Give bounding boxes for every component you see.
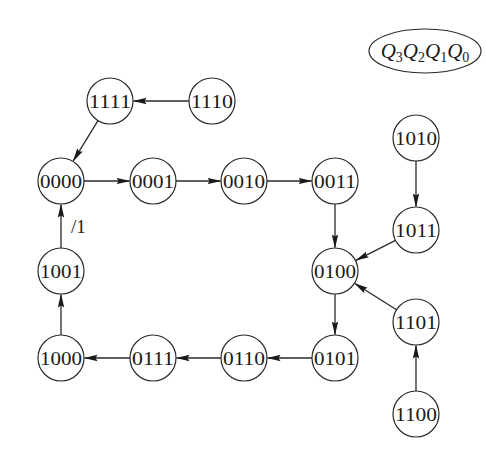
state-node-1001: 1001 (38, 248, 84, 294)
state-label: 1100 (395, 404, 437, 425)
state-node-1010: 1010 (393, 115, 439, 161)
state-node-0001: 0001 (130, 158, 176, 204)
state-node-1101: 1101 (393, 299, 439, 345)
state-label: 0111 (132, 348, 174, 369)
transition-output-label: /1 (71, 216, 86, 237)
transition-arrow-1111-to-0000 (73, 121, 98, 161)
state-node-0011: 0011 (312, 158, 358, 204)
state-node-0100: 0100 (312, 248, 358, 294)
state-label: 0010 (223, 171, 265, 192)
state-node-1110: 1110 (189, 78, 235, 124)
state-node-0101: 0101 (312, 335, 358, 381)
transition-labels: /1 (71, 216, 86, 237)
state-label: 0110 (223, 348, 265, 369)
state-node-1100: 1100 (393, 391, 439, 437)
state-label: 1011 (395, 220, 437, 241)
state-label: 0000 (40, 171, 82, 192)
state-diagram: Q3Q2Q1Q0 /1 1111111000000001001000111010… (0, 0, 486, 463)
state-label: 0101 (314, 348, 356, 369)
state-label: 1010 (395, 128, 437, 149)
state-nodes: 1111111000000001001000111010101101001001… (38, 78, 439, 437)
state-label: 0100 (314, 261, 356, 282)
state-node-0010: 0010 (221, 158, 267, 204)
variable-legend: Q3Q2Q1Q0 (369, 29, 481, 73)
legend-text: Q3Q2Q1Q0 (381, 39, 470, 65)
state-label: 1101 (395, 312, 437, 333)
state-node-1111: 1111 (87, 78, 133, 124)
state-label: 1001 (40, 261, 82, 282)
state-label: 0011 (314, 171, 356, 192)
state-label: 1110 (191, 91, 233, 112)
transition-arrow-1011-to-0100 (356, 240, 396, 260)
state-node-0110: 0110 (221, 335, 267, 381)
state-node-1011: 1011 (393, 207, 439, 253)
transition-arrow-1101-to-0100 (355, 284, 397, 310)
state-node-0000: 0000 (38, 158, 84, 204)
state-label: 1000 (40, 348, 82, 369)
state-node-0111: 0111 (130, 335, 176, 381)
state-node-1000: 1000 (38, 335, 84, 381)
state-label: 1111 (89, 91, 131, 112)
state-label: 0001 (132, 171, 174, 192)
